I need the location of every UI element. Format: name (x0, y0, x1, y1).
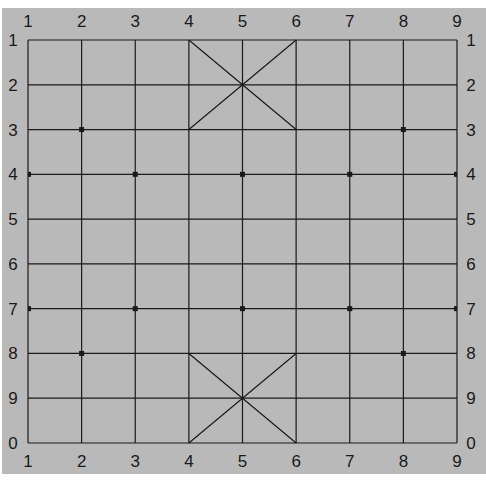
left-row-label: 7 (8, 300, 17, 317)
bottom-column-label: 8 (399, 453, 408, 470)
star-point-mark (347, 172, 352, 177)
star-point-mark (28, 306, 31, 311)
top-column-label: 4 (184, 13, 193, 30)
star-point-mark (454, 172, 457, 177)
top-column-label: 6 (291, 13, 300, 30)
bottom-column-label: 4 (184, 453, 193, 470)
bottom-column-label: 5 (238, 453, 247, 470)
right-row-label: 6 (466, 255, 475, 272)
top-column-label: 1 (23, 13, 32, 30)
star-point-mark (240, 306, 245, 311)
star-point-mark (28, 172, 31, 177)
left-row-label: 3 (8, 121, 17, 138)
bottom-column-label: 9 (452, 453, 461, 470)
left-row-label: 9 (8, 390, 17, 407)
left-row-label: 6 (8, 255, 17, 272)
top-column-label: 5 (238, 13, 247, 30)
star-point-mark (454, 306, 457, 311)
right-row-label: 9 (466, 390, 475, 407)
top-column-label: 2 (77, 13, 86, 30)
left-row-label: 1 (8, 32, 17, 49)
star-point-mark (133, 306, 138, 311)
right-row-label: 2 (466, 76, 475, 93)
top-column-label: 9 (452, 13, 461, 30)
left-row-label: 4 (8, 166, 17, 183)
star-point-mark (79, 351, 84, 356)
star-point-mark (240, 172, 245, 177)
bottom-column-label: 6 (291, 453, 300, 470)
left-row-label: 0 (8, 435, 17, 452)
bottom-column-label: 2 (77, 453, 86, 470)
right-row-label: 7 (466, 300, 475, 317)
star-point-mark (401, 351, 406, 356)
board-grid (0, 0, 486, 485)
right-row-label: 0 (466, 435, 475, 452)
right-row-label: 8 (466, 345, 475, 362)
star-point-mark (133, 172, 138, 177)
left-row-label: 2 (8, 76, 17, 93)
star-point-mark (347, 306, 352, 311)
right-row-label: 3 (466, 121, 475, 138)
star-point-mark (79, 127, 84, 132)
star-point-mark (401, 127, 406, 132)
top-column-label: 7 (345, 13, 354, 30)
left-row-label: 8 (8, 345, 17, 362)
bottom-column-label: 1 (23, 453, 32, 470)
right-row-label: 4 (466, 166, 475, 183)
top-column-label: 8 (399, 13, 408, 30)
left-row-label: 5 (8, 211, 17, 228)
right-row-label: 5 (466, 211, 475, 228)
bottom-column-label: 3 (131, 453, 140, 470)
bottom-column-label: 7 (345, 453, 354, 470)
top-column-label: 3 (131, 13, 140, 30)
right-row-label: 1 (466, 32, 475, 49)
